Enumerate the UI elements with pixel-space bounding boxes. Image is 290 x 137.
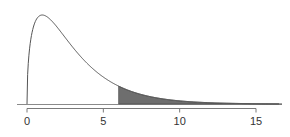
x-tick-label: 0 [24, 115, 30, 127]
x-tick-label: 10 [174, 115, 186, 127]
chi-square-density-chart: 051015 [0, 0, 290, 137]
x-tick-label: 15 [250, 115, 262, 127]
x-axis: 051015 [24, 109, 262, 127]
density-curve [27, 15, 282, 104]
x-tick-label: 5 [100, 115, 106, 127]
